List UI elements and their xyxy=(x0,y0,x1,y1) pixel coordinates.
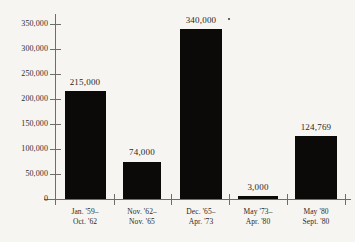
bar-value-label: 215,000 xyxy=(45,77,125,87)
category-label-line-2: Sept. '80 xyxy=(276,217,355,227)
y-axis-tick-label: 0 xyxy=(0,194,48,204)
y-axis-tick xyxy=(50,124,61,125)
y-axis-tick-label-text: 0 xyxy=(1,194,48,203)
category-label-line-1: Jan. '59– xyxy=(71,207,98,216)
y-axis-line xyxy=(55,14,56,200)
y-axis-tick xyxy=(50,24,61,25)
y-axis-tick-label-text: 50,000 xyxy=(1,169,48,178)
y-axis-tick-label: 100,000 xyxy=(0,144,48,154)
y-axis-tick-label-text: 300,000 xyxy=(1,44,48,53)
x-axis-tick xyxy=(55,194,56,205)
x-axis-category-label: May '80Sept. '80 xyxy=(276,207,355,227)
chart-page: 050,000100,000150,000200,000250,000300,0… xyxy=(0,0,355,242)
x-axis-tick xyxy=(114,194,115,205)
bar-value-label: 340,000 xyxy=(161,15,241,25)
y-axis-tick-label-text: 200,000 xyxy=(1,94,48,103)
y-axis-tick-label: 200,000 xyxy=(0,94,48,104)
category-label-line-1: Dec. '65– xyxy=(186,207,215,216)
y-axis-tick-label-text: 150,000 xyxy=(1,119,48,128)
y-axis-tick-label: 300,000 xyxy=(0,44,48,54)
y-axis-tick xyxy=(50,99,61,100)
y-axis-tick xyxy=(50,74,61,75)
y-axis-tick-label: 50,000 xyxy=(0,169,48,179)
y-axis-tick-label: 250,000 xyxy=(0,69,48,79)
bar[interactable] xyxy=(123,162,161,199)
category-label-line-1: Nov. '62– xyxy=(127,207,157,216)
y-axis-tick-label-text: 100,000 xyxy=(1,144,48,153)
bar[interactable] xyxy=(238,196,278,199)
bar-chart: 050,000100,000150,000200,000250,000300,0… xyxy=(0,0,355,242)
x-axis-tick xyxy=(345,194,346,205)
print-speck xyxy=(228,18,230,20)
y-axis-tick-label: 150,000 xyxy=(0,119,48,129)
x-axis-tick xyxy=(171,194,172,205)
bar-value-label: 124,769 xyxy=(276,122,355,132)
y-axis-tick-label-text: 350,000 xyxy=(1,19,48,28)
bar[interactable] xyxy=(180,29,222,199)
y-axis-tick xyxy=(50,174,61,175)
category-label-line-1: May '80 xyxy=(303,207,328,216)
x-axis-tick xyxy=(229,194,230,205)
y-axis-tick-label-text: 250,000 xyxy=(1,69,48,78)
bar[interactable] xyxy=(65,91,106,199)
y-axis-tick xyxy=(50,149,61,150)
bar[interactable] xyxy=(295,136,337,199)
bar-value-label: 74,000 xyxy=(102,147,182,157)
y-axis-tick xyxy=(50,49,61,50)
x-axis-tick xyxy=(287,194,288,205)
x-axis-line xyxy=(44,199,351,200)
y-axis-tick-label: 350,000 xyxy=(0,19,48,29)
bar-value-label: 3,000 xyxy=(218,182,298,192)
category-label-line-1: May '73– xyxy=(243,207,272,216)
